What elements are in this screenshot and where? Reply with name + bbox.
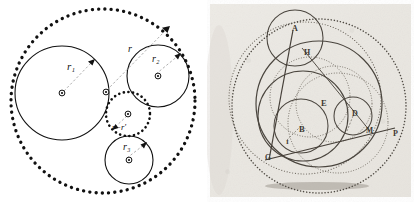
figure-container: r₁ r₂ r₃ r r−r′ xyxy=(0,0,414,202)
center-marker-r2 xyxy=(155,73,161,79)
point-label-M: M xyxy=(366,126,373,135)
scan-smudge xyxy=(265,182,369,190)
label-r-middle: r−r′ xyxy=(112,122,126,132)
point-label-B: B xyxy=(299,124,305,134)
left-diagram-svg: r₁ r₂ r₃ r r−r′ xyxy=(0,0,207,202)
right-figure-panel: A H E B D M P G I xyxy=(207,0,414,202)
point-label-G: G xyxy=(265,153,271,162)
point-label-P: P xyxy=(393,129,398,138)
right-diagram-svg: A H E B D M P G I xyxy=(207,0,414,202)
label-r-outer: r xyxy=(128,43,132,54)
center-marker-outer xyxy=(103,89,109,95)
point-label-D: D xyxy=(352,109,358,118)
point-label-E: E xyxy=(321,98,327,108)
point-label-A: A xyxy=(292,24,298,33)
r2-leader-line xyxy=(156,55,179,74)
label-r2: r₂ xyxy=(152,53,160,64)
point-label-I: I xyxy=(286,138,289,146)
point-label-H: H xyxy=(304,48,311,57)
center-marker-r1 xyxy=(59,90,65,96)
r2-arrowhead xyxy=(175,53,182,60)
label-r1: r₁ xyxy=(67,60,75,72)
r3-arrowhead xyxy=(141,142,148,149)
center-marker-r3 xyxy=(126,157,132,163)
center-marker-middle xyxy=(125,111,131,117)
outer-dotted-circle xyxy=(11,9,195,193)
label-r3: r₃ xyxy=(123,141,131,152)
left-figure-panel: r₁ r₂ r₃ r r−r′ xyxy=(0,0,207,202)
